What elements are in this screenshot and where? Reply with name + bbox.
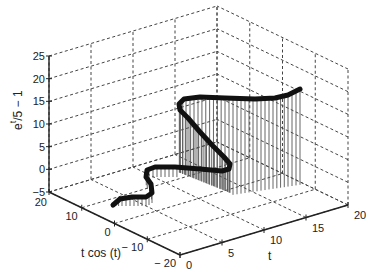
x-tick-label: 15 bbox=[312, 222, 324, 234]
z-tick-label: 25 bbox=[33, 50, 45, 62]
z-label-rest: /5 − 1 bbox=[11, 90, 25, 121]
y-tick-label: 10 bbox=[66, 210, 78, 222]
tick-labels: −50510152025− 20− 100102005101520 bbox=[32, 50, 366, 271]
floor-grid-t bbox=[91, 180, 222, 243]
x-tick-label: 5 bbox=[228, 247, 234, 259]
wall-grid-z2 bbox=[217, 6, 348, 69]
z-tick-label: 10 bbox=[33, 118, 45, 130]
y-tick-label: − 10 bbox=[122, 241, 144, 253]
floor-grid-t bbox=[175, 155, 306, 218]
x-tick-label: 20 bbox=[354, 209, 366, 221]
wall-grid-z2 bbox=[217, 29, 348, 92]
y-tick-label: 20 bbox=[35, 196, 47, 208]
y-tick-label: 0 bbox=[104, 226, 110, 238]
y-tick-label: − 20 bbox=[154, 257, 176, 269]
z-tick-label: 5 bbox=[39, 141, 45, 153]
stem-lines bbox=[116, 89, 300, 206]
z-tick-label: 15 bbox=[33, 95, 45, 107]
x-tick-label: 10 bbox=[270, 234, 282, 246]
z-tick-label: 0 bbox=[39, 163, 45, 175]
z-tick-label: 20 bbox=[33, 73, 45, 85]
x-axis-label: t bbox=[268, 249, 272, 263]
z-axis-label: et/5 − 1 bbox=[8, 90, 25, 130]
x-tick-label: 0 bbox=[186, 259, 192, 271]
floor-grid-c bbox=[147, 189, 315, 239]
y-axis-label: t cos (t) bbox=[81, 246, 121, 260]
stem3-chart: −50510152025− 20− 100102005101520 t t co… bbox=[0, 0, 375, 278]
